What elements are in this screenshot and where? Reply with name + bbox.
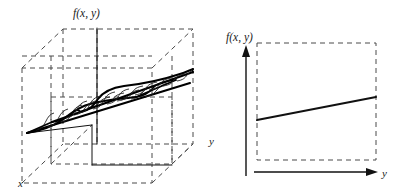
right-panel-data-line [257, 97, 376, 120]
left-panel-y-axis-label: y [208, 135, 214, 147]
box-depth-edge-top-right [152, 29, 193, 68]
box-depth-edge-top-left [22, 29, 63, 68]
sigmoid-surface [27, 69, 193, 133]
box-floor-diagonal-right [172, 144, 193, 164]
left-panel-function-label: f(x, y) [73, 7, 100, 20]
right-panel-function-label: f(x, y) [226, 31, 253, 44]
right-panel-y-axis-label: y [381, 167, 387, 179]
left-panel-wireframe-box [22, 29, 193, 183]
right-panel-vertical-axis-arrowhead [242, 45, 250, 57]
surface-upper-right-endcap [192, 69, 193, 72]
left-panel-x-axis-label: x [17, 177, 23, 189]
figure-container: f(x, y) x y f(x, y) y [0, 0, 396, 193]
figure-canvas: f(x, y) x y f(x, y) y [0, 0, 396, 193]
right-panel-plot [242, 43, 378, 176]
right-panel-horizontal-axis-arrowhead [366, 168, 378, 176]
